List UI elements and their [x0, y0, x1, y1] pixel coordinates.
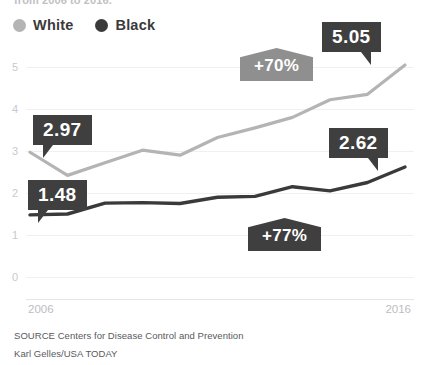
callout-black-end: 2.62: [329, 128, 388, 158]
xtick-label-2006: 2006: [28, 303, 54, 315]
source-text: SOURCE Centers for Disease Control and P…: [14, 330, 244, 341]
callout-white-start-value: 2.97: [33, 115, 92, 145]
badge-black-change-label: +77%: [248, 218, 321, 251]
callout-tail-icon: [361, 52, 371, 65]
x-axis-line: [26, 299, 414, 300]
badge-white-change-label: +70%: [240, 48, 313, 81]
callout-black-end-value: 2.62: [329, 128, 388, 158]
badge-black-change: +77%: [248, 218, 321, 251]
callout-tail-icon: [38, 210, 48, 223]
callout-white-end: 5.05: [322, 22, 381, 52]
callout-black-start-value: 1.48: [28, 180, 87, 210]
callout-black-start: 1.48: [28, 180, 87, 210]
credit-text: Karl Gelles/USA TODAY: [14, 348, 117, 359]
callout-tail-icon: [368, 158, 378, 171]
badge-white-change: +70%: [240, 48, 313, 81]
callout-white-end-value: 5.05: [322, 22, 381, 52]
chart-canvas: from 2006 to 2016. White Black 5 4 3 2 1…: [0, 0, 421, 365]
callout-tail-icon: [43, 145, 53, 158]
callout-white-start: 2.97: [33, 115, 92, 145]
xtick-label-2016: 2016: [385, 303, 411, 315]
